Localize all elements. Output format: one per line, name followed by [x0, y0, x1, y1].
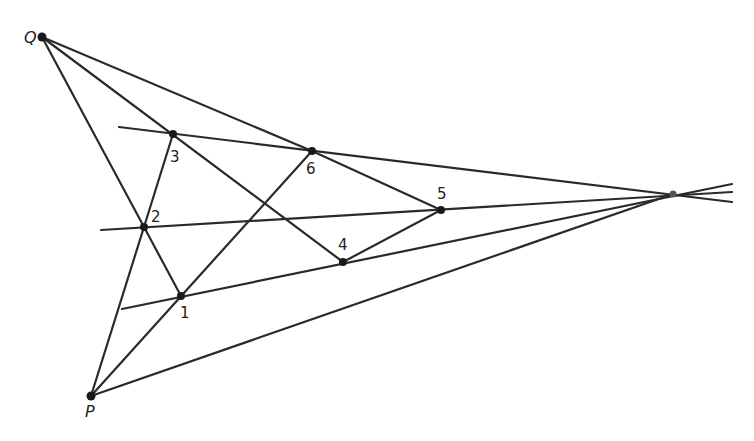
point-3 [169, 130, 177, 138]
geometry-diagram: Q P 1 2 3 4 5 6 [0, 0, 754, 441]
label-5: 5 [437, 185, 447, 203]
line-2-1 [144, 227, 181, 296]
label-6: 6 [306, 160, 316, 178]
point-P [87, 392, 96, 401]
point-1 [177, 292, 185, 300]
label-1: 1 [180, 304, 190, 322]
point-Q [38, 33, 47, 42]
label-P: P [85, 402, 95, 421]
vanishing-point [670, 191, 677, 198]
point-2 [140, 223, 148, 231]
point-6 [308, 147, 316, 155]
line-6-5 [312, 151, 441, 210]
line-Q-to-P [42, 37, 144, 227]
label-4: 4 [338, 236, 348, 254]
label-3: 3 [170, 148, 180, 166]
line-2-P [91, 227, 144, 396]
point-4 [339, 258, 347, 266]
label-2: 2 [151, 208, 161, 226]
point-5 [437, 206, 445, 214]
label-Q: Q [24, 28, 37, 47]
